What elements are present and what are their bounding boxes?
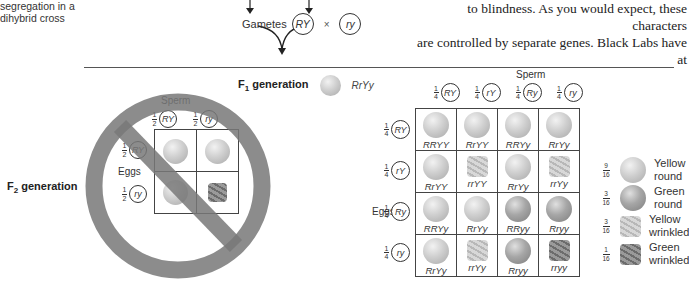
punnett-cell: RrYY <box>457 109 498 151</box>
punnett-cell: RRYY <box>416 109 457 151</box>
green-round-pea-icon <box>546 196 572 222</box>
genotype-label: RRYy <box>416 223 456 234</box>
caption-line-2: dihybrid cross <box>0 12 75 24</box>
punnett-cell: rrYY <box>457 151 498 193</box>
legend-label: Yellowwrinkled <box>649 213 689 239</box>
legend-item: 316Greenround <box>600 184 689 212</box>
genotype-label: RrYY <box>416 181 456 192</box>
punnett-row: RrYYrrYYRrYyrrYy <box>416 151 580 193</box>
divider-line <box>84 67 674 68</box>
punnett-cell: RRYy <box>416 193 457 235</box>
legend-item: 916Yellowround <box>600 156 689 184</box>
large-col-header-1: 14 RY <box>426 83 467 102</box>
green-wrinkled-pea-icon <box>620 244 641 265</box>
punnett-row: RrYyrrYyRryyrryy <box>416 235 580 277</box>
yellow-round-pea-icon <box>464 112 490 138</box>
yellow-round-pea-icon <box>423 196 449 222</box>
large-row-header-1: 14 RY <box>384 109 410 150</box>
legend-item: 116Greenwrinkled <box>600 240 689 268</box>
gametes-row: Gametes RY × ry <box>242 13 361 35</box>
genotype-label: RrYy <box>498 181 538 192</box>
genotype-label: rrYY <box>457 178 497 189</box>
body-text: to blindness. As you would expect, these… <box>417 0 687 68</box>
legend-ratio: 916 <box>600 162 612 178</box>
punnett-cell: RrYy <box>539 109 580 151</box>
yellow-round-pea-icon <box>320 75 341 96</box>
yellow-wrinkled-pea-icon <box>467 240 488 261</box>
large-col-header-4: 14 ry <box>549 83 590 102</box>
caption-line-1: segregation in a <box>0 0 75 12</box>
genotype-label: RRyy <box>498 223 538 234</box>
punnett-cell: rrYy <box>539 151 580 193</box>
f1-genotype: RrYy <box>351 80 373 91</box>
genotype-label: RrYy <box>539 139 579 150</box>
phenotype-legend: 916Yellowround316Greenround316Yellowwrin… <box>600 156 689 268</box>
cross-symbol: × <box>324 19 330 30</box>
legend-label: Yellowround <box>654 157 685 183</box>
yellow-wrinkled-pea-icon <box>549 156 570 177</box>
yellow-round-pea-icon <box>423 154 449 180</box>
large-row-header-4: 14 ry <box>384 232 410 273</box>
punnett-cell: RrYy <box>498 151 539 193</box>
punnett-cell: RRyy <box>498 193 539 235</box>
legend-label: Greenround <box>654 185 685 211</box>
yellow-wrinkled-pea-icon <box>467 156 488 177</box>
yellow-round-pea-icon <box>620 157 646 183</box>
hypothesis-punnett-square: Sperm 12 RY 12 ry 12 RY Eggs 12 ry <box>60 86 290 282</box>
genotype-label: RrYy <box>416 265 456 276</box>
legend-ratio: 316 <box>600 218 612 234</box>
punnett-row: RRYyRrYyRRyyRryy <box>416 193 580 235</box>
gamete-circle-RY: RY <box>292 13 314 35</box>
legend-label: Greenwrinkled <box>649 241 689 267</box>
punnett-cell: RRYy <box>498 109 539 151</box>
gametes-label: Gametes <box>242 18 287 30</box>
body-text-line-1: to blindness. As you would expect, these… <box>417 0 687 34</box>
gamete-circle-ry: ry <box>339 13 361 35</box>
punnett-cell: RrYY <box>416 151 457 193</box>
punnett-cell: Rryy <box>498 235 539 277</box>
large-col-header-2: 14 rY <box>467 83 508 102</box>
punnett-cell: RrYy <box>416 235 457 277</box>
large-punnett-grid: RRYYRrYYRRYyRrYyRrYYrrYYRrYyrrYyRRYyRrYy… <box>415 108 580 277</box>
yellow-round-pea-icon <box>505 112 531 138</box>
legend-item: 316Yellowwrinkled <box>600 212 689 240</box>
yellow-wrinkled-pea-icon <box>620 216 641 237</box>
legend-ratio: 116 <box>600 246 612 262</box>
genotype-label: rryy <box>539 262 579 273</box>
punnett-row: RRYYRrYYRRYyRrYy <box>416 109 580 151</box>
punnett-cell: RrYy <box>457 193 498 235</box>
large-row-headers: 14 RY 14 rY 14 Ry 14 ry <box>384 109 410 273</box>
yellow-round-pea-icon <box>464 196 490 222</box>
large-row-header-2: 14 rY <box>384 150 410 191</box>
body-text-line-2: are controlled by separate genes. Black … <box>417 34 687 68</box>
yellow-round-pea-icon <box>505 154 531 180</box>
genotype-label: RrYy <box>457 223 497 234</box>
punnett-cell: Rryy <box>539 193 580 235</box>
genotype-label: RRYY <box>416 139 456 150</box>
punnett-cell: rrYy <box>457 235 498 277</box>
genotype-label: rrYy <box>457 262 497 273</box>
legend-ratio: 316 <box>600 190 612 206</box>
yellow-round-pea-icon <box>423 112 449 138</box>
genotype-label: Rryy <box>498 265 538 276</box>
punnett-cell: rryy <box>539 235 580 277</box>
large-row-header-3: 14 Ry <box>384 191 410 232</box>
prohibition-sign-icon <box>78 86 278 282</box>
genotype-label: RrYY <box>457 139 497 150</box>
figure-caption: segregation in a dihybrid cross <box>0 0 75 24</box>
green-round-pea-icon <box>620 185 646 211</box>
green-round-pea-icon <box>505 238 531 264</box>
yellow-round-pea-icon <box>546 112 572 138</box>
large-col-header-3: 14 Ry <box>508 83 549 102</box>
large-sperm-label: Sperm <box>516 69 545 80</box>
genotype-label: Rryy <box>539 223 579 234</box>
green-wrinkled-pea-icon <box>549 240 570 261</box>
yellow-round-pea-icon <box>423 238 449 264</box>
large-col-headers: 14 RY 14 rY 14 Ry 14 ry <box>426 83 590 102</box>
genotype-label: rrYy <box>539 178 579 189</box>
genotype-label: RRYy <box>498 139 538 150</box>
green-round-pea-icon <box>505 196 531 222</box>
